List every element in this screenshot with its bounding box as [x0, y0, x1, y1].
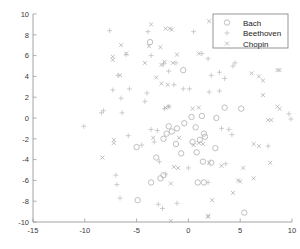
data-point-bach	[154, 155, 159, 160]
data-point-chopin	[164, 27, 168, 31]
data-point-beethoven	[223, 161, 228, 166]
data-point-bach	[214, 115, 219, 120]
data-point-beethoven	[160, 206, 165, 211]
data-point-beethoven	[114, 182, 119, 187]
plot-canvas: -10-8-6-4-20246810-15-10-50510 BachBeeth…	[0, 0, 300, 249]
data-point-beethoven	[166, 69, 171, 74]
data-point-bach	[182, 121, 187, 126]
data-point-bach	[194, 150, 199, 155]
data-point-chopin	[176, 166, 180, 170]
data-point-beethoven	[222, 76, 227, 81]
data-point-bach	[181, 67, 186, 72]
data-point-chopin	[241, 166, 245, 170]
data-point-bach	[200, 159, 205, 164]
data-point-bach	[239, 106, 244, 111]
data-points-layer	[81, 19, 293, 223]
data-point-beethoven	[187, 86, 192, 91]
data-point-chopin	[197, 106, 201, 110]
y-tick-label: -2	[22, 135, 29, 144]
data-point-chopin	[191, 107, 195, 111]
data-point-chopin	[100, 156, 104, 160]
data-point-chopin	[172, 165, 176, 169]
data-point-bach	[202, 134, 207, 139]
data-point-beethoven	[142, 99, 147, 104]
data-point-beethoven	[266, 144, 271, 149]
data-point-chopin	[111, 58, 115, 62]
series-beethoven	[81, 28, 293, 211]
data-point-beethoven	[145, 29, 150, 34]
data-point-chopin	[207, 19, 211, 23]
y-tick-label: 0	[25, 114, 29, 123]
data-point-beethoven	[120, 110, 125, 115]
y-tick-label: 10	[21, 10, 29, 19]
data-point-bach	[213, 145, 218, 150]
data-point-beethoven	[186, 165, 191, 170]
data-point-chopin	[175, 53, 179, 57]
data-point-beethoven	[171, 82, 176, 87]
data-point-beethoven	[209, 73, 214, 78]
y-tick-label: 8	[25, 31, 29, 40]
data-point-bach	[242, 210, 247, 215]
data-point-beethoven	[149, 127, 154, 132]
data-point-chopin	[119, 43, 123, 47]
data-point-beethoven	[217, 70, 222, 75]
data-point-chopin	[250, 71, 254, 75]
data-point-chopin	[252, 142, 256, 146]
data-point-beethoven	[286, 111, 291, 116]
data-point-beethoven	[288, 117, 293, 122]
data-point-chopin	[261, 93, 265, 97]
data-point-beethoven	[110, 87, 115, 92]
data-point-beethoven	[175, 201, 180, 206]
data-point-chopin	[257, 144, 261, 148]
data-point-beethoven	[156, 202, 161, 207]
data-point-beethoven	[155, 128, 160, 133]
legend-label: Beethoven	[243, 29, 281, 38]
data-point-chopin	[154, 75, 158, 79]
data-point-beethoven	[126, 133, 131, 138]
data-point-bach	[195, 180, 200, 185]
data-point-beethoven	[118, 196, 123, 201]
y-tick-label: -8	[22, 197, 29, 206]
data-point-bach	[161, 136, 166, 141]
y-tick-label: -6	[22, 176, 29, 185]
data-point-bach	[199, 113, 204, 118]
data-point-chopin	[192, 143, 196, 147]
data-point-beethoven	[229, 132, 234, 137]
data-point-chopin	[177, 136, 181, 140]
data-point-chopin	[220, 164, 224, 168]
y-tick-label: 2	[25, 93, 29, 102]
data-point-chopin	[151, 136, 155, 140]
data-point-beethoven	[107, 28, 112, 33]
data-point-chopin	[210, 198, 214, 202]
x-tick-label: 10	[288, 226, 296, 235]
data-point-bach	[134, 144, 139, 149]
data-point-chopin	[143, 61, 147, 65]
data-point-beethoven	[217, 88, 222, 93]
data-point-chopin	[252, 176, 256, 180]
data-point-bach	[193, 125, 198, 130]
data-point-beethoven	[149, 53, 154, 58]
data-point-chopin	[276, 68, 280, 72]
data-point-bach	[174, 126, 179, 131]
data-point-beethoven	[152, 139, 157, 144]
data-point-bach	[148, 180, 153, 185]
y-tick-label: 4	[25, 72, 29, 81]
data-point-beethoven	[207, 90, 212, 95]
data-point-chopin	[278, 68, 282, 72]
data-point-beethoven	[127, 86, 132, 91]
data-point-beethoven	[139, 143, 144, 148]
data-point-beethoven	[113, 173, 118, 178]
data-point-bach	[189, 114, 194, 119]
data-point-chopin	[160, 82, 164, 86]
data-point-beethoven	[81, 124, 86, 129]
data-point-chopin	[268, 161, 272, 165]
data-point-chopin	[201, 142, 205, 146]
data-point-chopin	[257, 74, 261, 78]
data-point-bach	[222, 105, 227, 110]
y-tick-label: 6	[25, 51, 29, 60]
y-tick-label: -4	[22, 155, 29, 164]
data-point-bach	[158, 176, 163, 181]
data-point-chopin	[261, 79, 265, 83]
data-point-chopin	[149, 22, 153, 26]
data-point-chopin	[197, 141, 201, 145]
